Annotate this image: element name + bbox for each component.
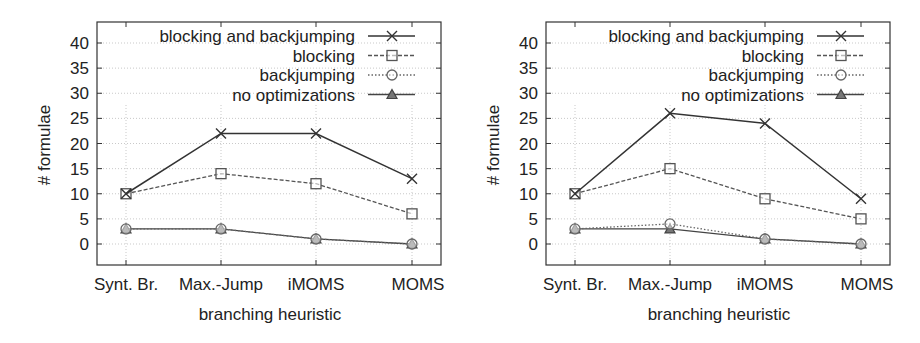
x-tick-label: Max.-Jump bbox=[628, 275, 712, 294]
y-tick-label: 30 bbox=[519, 84, 538, 103]
y-tick-label: 5 bbox=[80, 210, 89, 229]
y-axis-label: # formulae bbox=[484, 105, 503, 185]
x-tick-label: Synt. Br. bbox=[543, 275, 607, 294]
legend-label: no optimizations bbox=[681, 86, 804, 105]
x-axis-label: branching heuristic bbox=[199, 305, 342, 324]
legend-label: blocking and backjumping bbox=[608, 27, 804, 46]
right-chart: 0510152025303540Synt. Br.Max.-JumpiMOMSM… bbox=[449, 0, 909, 343]
legend-label: blocking bbox=[742, 47, 804, 66]
x-axis-label: branching heuristic bbox=[648, 305, 791, 324]
y-tick-label: 30 bbox=[70, 84, 89, 103]
y-tick-label: 5 bbox=[529, 210, 538, 229]
y-tick-label: 35 bbox=[519, 59, 538, 78]
y-tick-label: 40 bbox=[519, 34, 538, 53]
left-chart: 0510152025303540Synt. Br.Max.-JumpiMOMSM… bbox=[0, 0, 460, 343]
x-tick-label: MOMS bbox=[841, 275, 894, 294]
y-tick-label: 40 bbox=[70, 34, 89, 53]
y-tick-label: 0 bbox=[529, 235, 538, 254]
x-tick-label: Synt. Br. bbox=[94, 275, 158, 294]
x-tick-label: iMOMS bbox=[737, 275, 794, 294]
y-tick-label: 10 bbox=[70, 185, 89, 204]
y-tick-label: 15 bbox=[519, 160, 538, 179]
y-tick-label: 25 bbox=[70, 109, 89, 128]
x-tick-label: MOMS bbox=[392, 275, 445, 294]
y-tick-label: 25 bbox=[519, 109, 538, 128]
y-tick-label: 15 bbox=[70, 160, 89, 179]
series-blocking-and-backjumping bbox=[121, 128, 417, 198]
y-tick-label: 0 bbox=[80, 235, 89, 254]
legend-label: no optimizations bbox=[232, 86, 355, 105]
series-blocking-and-backjumping bbox=[570, 108, 866, 203]
y-tick-label: 35 bbox=[70, 59, 89, 78]
legend-label: blocking bbox=[293, 47, 355, 66]
y-axis-label: # formulae bbox=[35, 105, 54, 185]
legend-label: blocking and backjumping bbox=[159, 27, 355, 46]
y-tick-label: 10 bbox=[519, 185, 538, 204]
legend-label: backjumping bbox=[260, 66, 355, 85]
y-tick-label: 20 bbox=[519, 135, 538, 154]
series-backjumping bbox=[121, 224, 417, 249]
x-tick-label: Max.-Jump bbox=[179, 275, 263, 294]
y-tick-label: 20 bbox=[70, 135, 89, 154]
legend-label: backjumping bbox=[709, 66, 804, 85]
x-tick-label: iMOMS bbox=[288, 275, 345, 294]
